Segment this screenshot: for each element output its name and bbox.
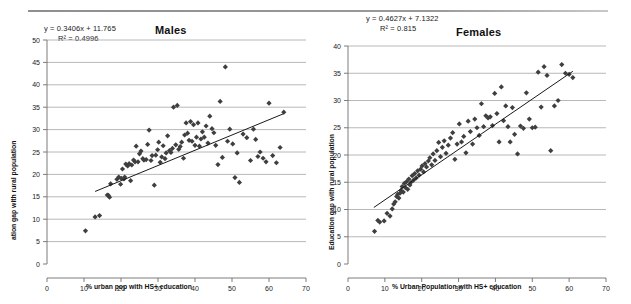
x-tick-label: 0: [45, 285, 49, 292]
x-tick-label: 70: [302, 285, 310, 292]
x-tick-label: 60: [265, 285, 273, 292]
data-point: [204, 123, 209, 128]
x-tick-label: 20: [117, 285, 125, 292]
data-point: [258, 149, 263, 154]
data-point: [382, 218, 387, 223]
data-point: [207, 114, 212, 119]
data-point: [499, 84, 504, 89]
y-tick-label: 15: [333, 179, 341, 186]
trendline: [95, 114, 284, 192]
data-point: [479, 101, 484, 106]
data-point: [223, 64, 228, 69]
data-point: [515, 151, 520, 156]
data-point: [213, 143, 218, 148]
data-point: [470, 142, 475, 147]
data-point: [194, 135, 199, 140]
data-point: [195, 120, 200, 125]
data-point: [152, 183, 157, 188]
data-point: [440, 145, 445, 150]
males-plot-area: 05101520253035404550010203040506070: [0, 0, 316, 304]
data-point: [244, 135, 249, 140]
data-point: [120, 166, 125, 171]
data-point: [253, 137, 258, 142]
data-point: [270, 153, 275, 158]
data-point: [184, 120, 189, 125]
data-point: [278, 145, 283, 150]
x-tick-label: 70: [602, 285, 610, 292]
data-point: [237, 180, 242, 185]
y-tick-label: 40: [333, 43, 341, 50]
x-tick-label: 40: [492, 285, 500, 292]
data-point: [527, 116, 532, 121]
data-point: [505, 124, 510, 129]
data-point: [472, 116, 477, 121]
data-point: [260, 156, 265, 161]
x-tick-label: 50: [228, 285, 236, 292]
y-tick-label: 10: [333, 206, 341, 213]
data-point: [450, 130, 455, 135]
data-point: [128, 178, 133, 183]
data-point: [118, 182, 123, 187]
data-point: [539, 104, 544, 109]
data-point: [227, 127, 232, 132]
data-point: [156, 140, 161, 145]
data-point: [436, 140, 441, 145]
data-point: [241, 131, 246, 136]
x-tick-label: 40: [191, 285, 199, 292]
x-tick-label: 10: [80, 285, 88, 292]
data-point: [148, 158, 153, 163]
data-point: [153, 153, 158, 158]
x-tick-label: 20: [418, 285, 426, 292]
data-point: [161, 143, 166, 148]
x-tick-label: 50: [528, 285, 536, 292]
data-point: [255, 154, 260, 159]
data-point: [248, 158, 253, 163]
y-tick-label: 20: [32, 171, 40, 178]
data-point: [457, 121, 462, 126]
data-point: [274, 160, 279, 165]
y-tick-label: 25: [333, 124, 341, 131]
y-tick-label: 5: [337, 233, 341, 240]
data-point: [512, 132, 517, 137]
x-tick-label: 30: [154, 285, 162, 292]
data-point: [452, 157, 457, 162]
data-point: [448, 136, 453, 141]
data-point: [508, 139, 513, 144]
data-point: [266, 101, 271, 106]
data-point: [235, 150, 240, 155]
data-point: [145, 142, 150, 147]
data-point: [541, 64, 546, 69]
chart-males: y = 0.3406x + 11.765 R² = 0.4996 Males %…: [0, 0, 316, 304]
data-point: [497, 139, 502, 144]
y-tick-label: 0: [36, 261, 40, 268]
data-point: [570, 75, 575, 80]
data-point: [548, 148, 553, 153]
data-point: [454, 142, 459, 147]
data-point: [179, 140, 184, 145]
y-tick-label: 15: [32, 193, 40, 200]
data-point: [492, 91, 497, 96]
data-point: [555, 98, 560, 103]
data-point: [552, 103, 557, 108]
data-point: [466, 119, 471, 124]
data-point: [220, 155, 225, 160]
data-point: [461, 134, 466, 139]
females-plot-area: 0510152025303540010203040506070: [316, 0, 631, 304]
data-point: [263, 159, 268, 164]
y-tick-label: 30: [32, 126, 40, 133]
data-point: [215, 162, 220, 167]
data-point: [510, 105, 515, 110]
data-point: [165, 133, 170, 138]
data-point: [559, 62, 564, 67]
data-point: [97, 213, 102, 218]
y-tick-label: 35: [333, 70, 341, 77]
chart-females: y = 0.4627x + 7.1322 R² = 0.815 Females …: [316, 0, 631, 304]
data-point: [135, 159, 140, 164]
data-point: [459, 139, 464, 144]
y-tick-label: 10: [32, 216, 40, 223]
y-tick-label: 50: [32, 37, 40, 44]
data-point: [536, 70, 541, 75]
data-point: [494, 111, 499, 116]
data-point: [442, 138, 447, 143]
data-point: [134, 144, 139, 149]
